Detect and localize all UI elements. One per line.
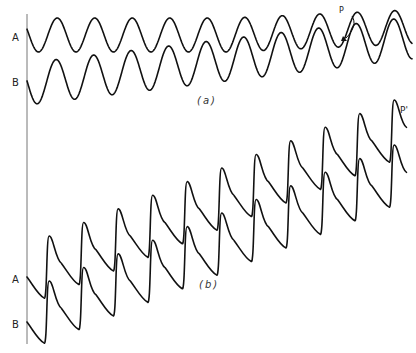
wave-a-panel-a [27,11,412,52]
label-a-panel-a: A [12,33,19,43]
caption-panel-b: (b) [199,280,219,290]
wave-diagram [0,0,416,353]
label-b-panel-a: B [12,78,19,88]
annotation-p: P [339,7,344,15]
caption-panel-a: (a) [197,96,217,106]
wave-a-panel-b [27,100,407,298]
label-a-panel-b: A [12,275,19,285]
annotation-p-prime: P' [400,106,408,115]
label-b-panel-b: B [12,320,19,330]
wave-b-panel-b [27,145,407,343]
wave-b-panel-a [27,19,412,104]
